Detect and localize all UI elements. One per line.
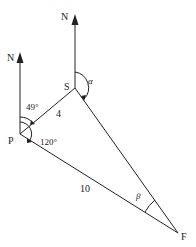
angle-arc-beta [145,200,155,212]
edge-SF [75,88,178,233]
bearing-diagram: N N 49° 120° α β P S F 4 10 [0,0,196,247]
angle-label-alpha: α [88,76,93,86]
edge-PF [20,134,178,233]
length-label-PS: 4 [56,108,61,119]
north-arrow-at-S [72,14,79,88]
angle-label-beta: β [135,191,141,201]
angle-arc-alpha [75,72,89,101]
angle-label-49: 49° [26,102,39,112]
point-label-S: S [64,81,70,92]
point-label-P: P [8,135,14,146]
length-label-PF: 10 [80,183,90,194]
angle-label-120: 120° [40,137,58,147]
north-label-P: N [7,52,14,63]
point-label-F: F [181,231,187,242]
north-arrow-at-P [17,52,24,134]
angle-arc-49 [20,117,35,125]
north-label-S: N [61,11,68,22]
